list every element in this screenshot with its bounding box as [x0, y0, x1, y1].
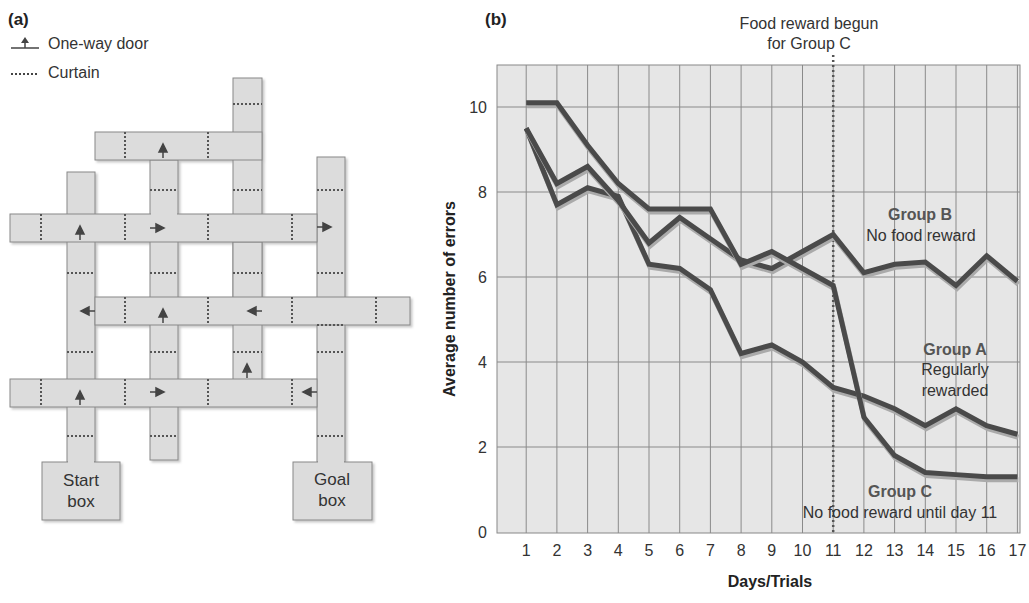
x-tick-label: 11 [825, 542, 842, 559]
x-tick-label: 10 [794, 542, 812, 559]
group-a-sublabel: rewarded [922, 382, 989, 399]
x-tick-label: 6 [675, 542, 684, 559]
group-a-label: Group A [923, 341, 987, 358]
x-tick-label: 12 [855, 542, 873, 559]
x-tick-label: 7 [706, 542, 715, 559]
annotation-line1: Food reward begun [740, 15, 879, 32]
x-axis-ticks: 1234567891011121314151617 [522, 542, 1027, 559]
x-tick-label: 1 [522, 542, 531, 559]
y-tick-label: 4 [478, 354, 487, 371]
y-tick-label: 6 [478, 269, 487, 286]
x-tick-label: 4 [614, 542, 623, 559]
x-tick-label: 8 [737, 542, 746, 559]
y-tick-label: 10 [469, 99, 487, 116]
x-tick-label: 14 [916, 542, 934, 559]
group-c-sublabel: No food reward until day 11 [803, 504, 998, 521]
line-chart: 0246810 1234567891011121314151617 Averag… [0, 0, 1029, 603]
y-axis-ticks: 0246810 [469, 99, 487, 541]
x-tick-label: 2 [552, 542, 561, 559]
x-tick-label: 3 [583, 542, 592, 559]
y-tick-label: 2 [478, 439, 487, 456]
x-tick-label: 13 [886, 542, 904, 559]
x-tick-label: 5 [645, 542, 654, 559]
x-tick-label: 16 [978, 542, 996, 559]
x-tick-label: 15 [947, 542, 965, 559]
group-b-label: Group B [888, 206, 952, 223]
group-c-label: Group C [868, 483, 932, 500]
x-tick-label: 17 [1009, 542, 1027, 559]
annotation-line2: for Group C [767, 35, 851, 52]
group-b-sublabel: No food reward [866, 227, 975, 244]
group-a-sublabel: Regularly [921, 361, 989, 378]
x-axis-label: Days/Trials [728, 573, 813, 590]
x-tick-label: 9 [767, 542, 776, 559]
plot-area [497, 65, 1020, 533]
y-tick-label: 0 [478, 524, 487, 541]
y-tick-label: 8 [478, 184, 487, 201]
y-axis-label: Average number of errors [441, 201, 458, 397]
